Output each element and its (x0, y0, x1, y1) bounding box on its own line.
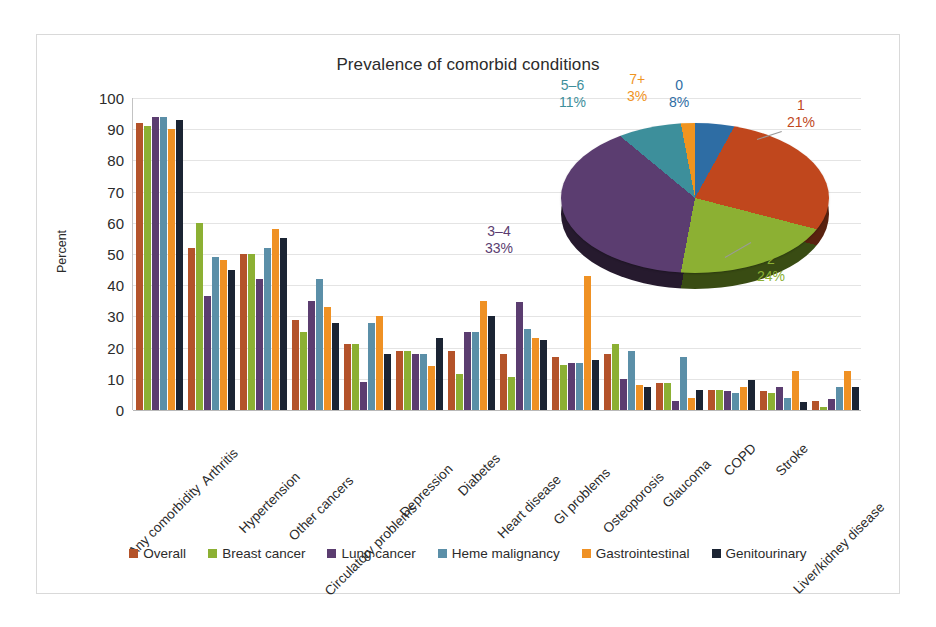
bar[interactable] (136, 123, 143, 410)
bar[interactable] (188, 248, 195, 410)
bar[interactable] (636, 385, 643, 410)
bar[interactable] (768, 393, 775, 410)
bar[interactable] (664, 383, 671, 410)
bar[interactable] (836, 387, 843, 410)
bar[interactable] (844, 371, 851, 410)
bar[interactable] (344, 344, 351, 410)
bar[interactable] (828, 399, 835, 410)
bar[interactable] (540, 340, 547, 410)
bar-group (289, 98, 341, 410)
bar[interactable] (708, 390, 715, 410)
bar[interactable] (740, 387, 747, 410)
legend-swatch (582, 549, 591, 558)
bar[interactable] (656, 383, 663, 410)
legend-label: Lung cancer (341, 546, 415, 561)
bar[interactable] (776, 387, 783, 410)
bar[interactable] (716, 390, 723, 410)
bar[interactable] (448, 351, 455, 410)
bar[interactable] (396, 351, 403, 410)
bar[interactable] (152, 117, 159, 410)
bar[interactable] (532, 338, 539, 410)
bar[interactable] (852, 387, 859, 410)
bar[interactable] (592, 360, 599, 410)
bar[interactable] (384, 354, 391, 410)
bar[interactable] (644, 387, 651, 410)
pie-slice-label: 224% (757, 251, 785, 284)
bar[interactable] (256, 279, 263, 410)
bar[interactable] (696, 390, 703, 410)
bar[interactable] (456, 374, 463, 410)
bar[interactable] (212, 257, 219, 410)
bar[interactable] (308, 301, 315, 410)
bar[interactable] (784, 398, 791, 410)
bar[interactable] (368, 323, 375, 410)
bar[interactable] (228, 270, 235, 410)
bar[interactable] (404, 351, 411, 410)
legend-item[interactable]: Heme malignancy (438, 546, 560, 561)
bar[interactable] (204, 296, 211, 410)
bar[interactable] (612, 344, 619, 410)
x-tick-label: Stroke (773, 441, 811, 479)
pie-slice-name: 3–4 (487, 223, 510, 239)
bar[interactable] (196, 223, 203, 410)
bar[interactable] (324, 307, 331, 410)
bar[interactable] (604, 354, 611, 410)
y-tick-label: 40 (107, 277, 124, 294)
bar[interactable] (428, 366, 435, 410)
bar[interactable] (760, 391, 767, 410)
bar[interactable] (420, 354, 427, 410)
bar[interactable] (524, 329, 531, 410)
bar[interactable] (500, 354, 507, 410)
bar[interactable] (488, 316, 495, 410)
bar[interactable] (220, 260, 227, 410)
legend-item[interactable]: Lung cancer (327, 546, 415, 561)
bar[interactable] (688, 398, 695, 410)
bar[interactable] (560, 365, 567, 410)
bar[interactable] (292, 320, 299, 410)
legend-item[interactable]: Overall (129, 546, 186, 561)
bar[interactable] (248, 254, 255, 410)
bar[interactable] (332, 323, 339, 410)
bar[interactable] (360, 382, 367, 410)
bar[interactable] (576, 363, 583, 410)
bar[interactable] (280, 238, 287, 410)
legend-swatch (438, 549, 447, 558)
legend-item[interactable]: Gastrointestinal (582, 546, 690, 561)
bar[interactable] (168, 129, 175, 410)
bar[interactable] (472, 332, 479, 410)
bar[interactable] (628, 351, 635, 410)
bar[interactable] (240, 254, 247, 410)
bar[interactable] (620, 379, 627, 410)
bar[interactable] (264, 248, 271, 410)
x-tick-label: Diabetes (455, 451, 503, 499)
bar[interactable] (464, 332, 471, 410)
bar[interactable] (732, 393, 739, 410)
pie-slice-label: 5–611% (559, 77, 586, 110)
bar[interactable] (552, 357, 559, 410)
bar[interactable] (820, 407, 827, 410)
bar[interactable] (160, 117, 167, 410)
bar[interactable] (376, 316, 383, 410)
bar[interactable] (508, 377, 515, 410)
bar[interactable] (800, 402, 807, 410)
bar[interactable] (272, 229, 279, 410)
bar[interactable] (724, 391, 731, 410)
bar[interactable] (680, 357, 687, 410)
bar[interactable] (352, 344, 359, 410)
legend-item[interactable]: Breast cancer (208, 546, 305, 561)
bar[interactable] (812, 401, 819, 410)
legend-item[interactable]: Genitourinary (712, 546, 807, 561)
bar[interactable] (300, 332, 307, 410)
bar[interactable] (176, 120, 183, 410)
bar[interactable] (436, 338, 443, 410)
bar[interactable] (412, 354, 419, 410)
bar[interactable] (672, 401, 679, 410)
pie-slice-percent: 33% (485, 240, 513, 257)
bar[interactable] (748, 380, 755, 410)
bar[interactable] (316, 279, 323, 410)
pie-slice-percent: 8% (669, 94, 689, 111)
bar[interactable] (568, 363, 575, 410)
pie-slice-label: 3–433% (485, 223, 513, 256)
bar[interactable] (144, 126, 151, 410)
bar[interactable] (792, 371, 799, 410)
